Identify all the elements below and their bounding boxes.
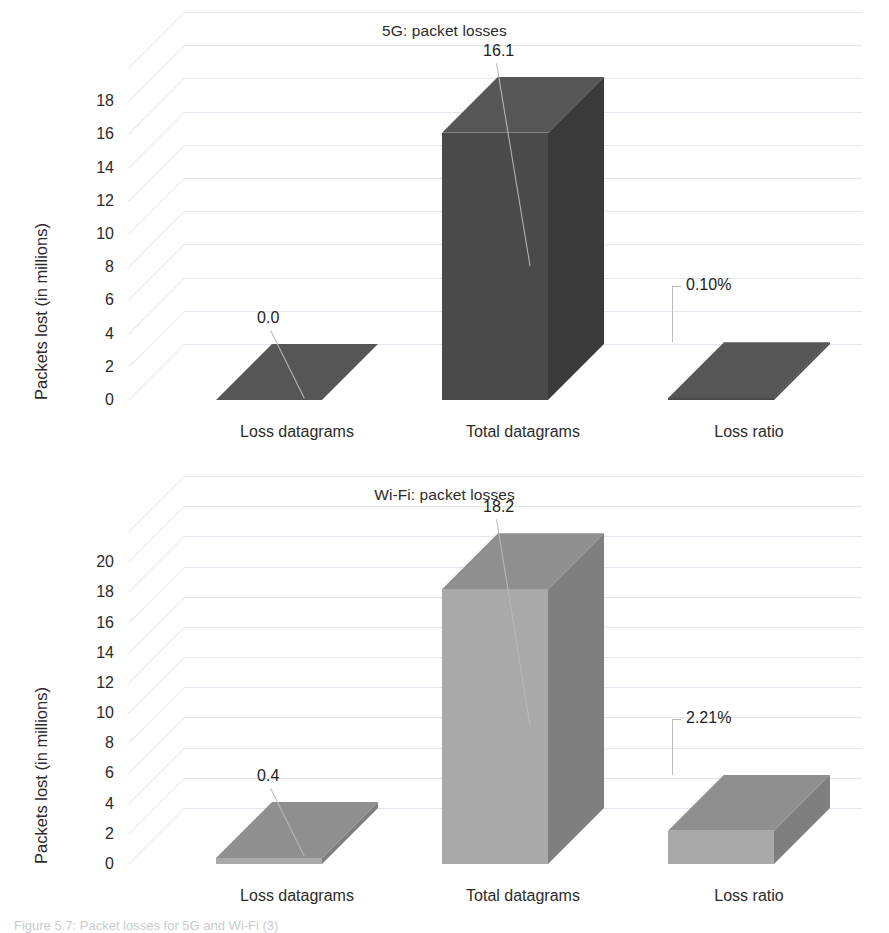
gridline-depth-edge xyxy=(128,211,185,268)
bar-2[interactable] xyxy=(442,464,604,864)
y-axis-tick-label: 8 xyxy=(54,735,114,751)
gridline-depth-edge xyxy=(128,597,185,654)
x-axis-category-label: Total datagrams xyxy=(402,424,644,440)
y-axis-tick-label: 16 xyxy=(54,615,114,631)
gridline-depth-edge xyxy=(128,627,185,684)
chart-wifi: Wi-Fi: packet lossesPackets lost (in mil… xyxy=(0,464,889,929)
gridline-depth-edge xyxy=(128,244,185,301)
x-axis-category-label: Loss datagrams xyxy=(176,424,418,440)
bar-3[interactable] xyxy=(668,464,830,864)
gridline-depth-edge xyxy=(128,344,185,401)
gridline-depth-edge xyxy=(128,748,185,805)
gridline-depth-edge xyxy=(128,78,185,135)
y-axis-tick-label: 0 xyxy=(54,392,114,408)
gridline-depth-edge xyxy=(128,12,185,69)
y-axis-tick-label: 12 xyxy=(54,675,114,691)
data-label: 0.4 xyxy=(257,768,279,784)
y-axis-tick-label: 8 xyxy=(54,259,114,275)
bar-2[interactable] xyxy=(442,0,604,400)
bar-front-face xyxy=(668,398,774,400)
gridline-depth-edge xyxy=(128,778,185,835)
y-axis-title: Packets lost (in millions) xyxy=(32,223,51,400)
data-label: 18.2 xyxy=(483,499,514,515)
gridline-depth-edge xyxy=(128,476,185,533)
y-axis-tick-label: 16 xyxy=(54,126,114,142)
label-leader-line xyxy=(672,286,673,342)
gridline-depth-edge xyxy=(128,567,185,624)
bar-front-face xyxy=(668,831,774,864)
bar-front-face xyxy=(442,133,548,400)
figure-caption: Figure 5.7: Packet losses for 5G and Wi-… xyxy=(14,918,278,933)
y-axis-tick-label: 4 xyxy=(54,796,114,812)
label-leader-tick xyxy=(672,719,681,720)
x-axis-category-label: Loss ratio xyxy=(628,888,870,904)
bar-front-face xyxy=(442,589,548,864)
bar-front-face xyxy=(216,858,322,864)
y-axis-tick-label: 10 xyxy=(54,226,114,242)
y-axis-tick-label: 14 xyxy=(54,160,114,176)
bar-1[interactable] xyxy=(216,464,378,864)
y-axis-tick-label: 2 xyxy=(54,826,114,842)
x-axis-category-label: Loss ratio xyxy=(628,424,870,440)
data-label: 0.0 xyxy=(257,310,279,326)
x-axis-category-label: Loss datagrams xyxy=(176,888,418,904)
y-axis-tick-label: 4 xyxy=(54,326,114,342)
gridline-depth-edge xyxy=(128,536,185,593)
y-axis-tick-label: 12 xyxy=(54,193,114,209)
gridline-depth-edge xyxy=(128,112,185,169)
bar-3[interactable] xyxy=(668,0,830,400)
y-axis-tick-label: 14 xyxy=(54,645,114,661)
gridline-depth-edge xyxy=(128,808,185,865)
gridline-depth-edge xyxy=(128,45,185,102)
chart-5g: 5G: packet lossesPackets lost (in millio… xyxy=(0,0,889,464)
gridline-depth-edge xyxy=(128,657,185,714)
bar-side-face xyxy=(548,77,604,400)
y-axis-tick-label: 18 xyxy=(54,584,114,600)
y-axis-tick-label: 0 xyxy=(54,856,114,872)
bar-top-face xyxy=(668,342,830,398)
y-axis-tick-label: 18 xyxy=(54,93,114,109)
x-axis-category-label: Total datagrams xyxy=(402,888,644,904)
data-label: 16.1 xyxy=(483,43,514,59)
bar-side-face xyxy=(548,533,604,864)
gridline-depth-edge xyxy=(128,717,185,774)
bar-1[interactable] xyxy=(216,0,378,400)
y-axis-tick-label: 6 xyxy=(54,765,114,781)
y-axis-title: Packets lost (in millions) xyxy=(32,687,51,864)
gridline-depth-edge xyxy=(128,311,185,368)
label-leader-tick xyxy=(672,286,681,287)
y-axis-tick-label: 20 xyxy=(54,554,114,570)
label-leader-line xyxy=(672,719,673,775)
data-label: 2.21% xyxy=(686,710,731,726)
gridline-depth-edge xyxy=(128,506,185,563)
gridline-depth-edge xyxy=(128,178,185,235)
bar-top-face xyxy=(216,344,378,400)
y-axis-tick-label: 2 xyxy=(54,359,114,375)
y-axis-tick-label: 10 xyxy=(54,705,114,721)
data-label: 0.10% xyxy=(686,277,731,293)
gridline-depth-edge xyxy=(128,687,185,744)
y-axis-tick-label: 6 xyxy=(54,292,114,308)
gridline-depth-edge xyxy=(128,145,185,202)
gridline-depth-edge xyxy=(128,278,185,335)
